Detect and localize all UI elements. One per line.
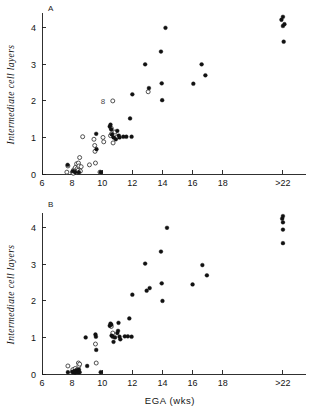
data-point (85, 364, 89, 368)
data-point (160, 81, 164, 85)
data-point (146, 90, 150, 94)
x-tick-label: 14 (157, 378, 167, 388)
data-point (66, 370, 70, 374)
y-tick-label: 2 (31, 96, 36, 106)
data-point (281, 214, 285, 218)
y-tick-label: 4 (31, 223, 36, 233)
data-point (99, 170, 103, 174)
data-point (143, 62, 147, 66)
data-point (111, 99, 115, 103)
y-tick-label: 3 (31, 260, 36, 270)
data-point (118, 136, 122, 140)
series-open (65, 90, 150, 176)
data-point (203, 73, 207, 77)
x-tick-label: 8 (70, 378, 75, 388)
x-tick-label: 8 (70, 178, 75, 188)
series-filled (66, 214, 285, 374)
x-tick-label: 12 (127, 178, 137, 188)
y-tick-label: 1 (31, 133, 36, 143)
x-tick-label: >22 (275, 178, 290, 188)
data-point (147, 86, 151, 90)
x-tick-label: 18 (218, 178, 228, 188)
scatter-plot-b: 681012141618>2201234Intermediate cell la… (0, 198, 317, 409)
data-point (78, 362, 82, 366)
data-point (124, 135, 128, 139)
x-tick-label: 16 (188, 178, 198, 188)
data-point (93, 342, 97, 346)
panel-a: A 681012141618>2201234Intermediate cell … (0, 0, 317, 200)
data-point (200, 263, 204, 267)
data-point (281, 228, 285, 232)
data-point (99, 370, 103, 374)
y-tick-label: 0 (31, 170, 36, 180)
data-point (81, 135, 85, 139)
scatter-plot-a: 681012141618>2201234Intermediate cell la… (0, 0, 317, 200)
x-tick-label: 10 (97, 178, 107, 188)
data-point (283, 22, 287, 26)
panel-b: B 681012141618>2201234Intermediate cell … (0, 198, 317, 409)
y-axis-title: Intermediate cell layers (6, 45, 16, 146)
x-tick-label: >22 (275, 378, 290, 388)
data-point (94, 348, 98, 352)
x-tick-label: 6 (39, 378, 44, 388)
x-tick-label: 18 (218, 378, 228, 388)
y-tick-label: 3 (31, 60, 36, 70)
data-point (102, 140, 106, 144)
data-point (281, 15, 285, 19)
data-point (109, 123, 113, 127)
data-point (66, 163, 70, 167)
data-point (111, 141, 115, 145)
data-point (127, 317, 131, 321)
data-point (160, 281, 164, 285)
y-axis-title: Intermediate cell layers (6, 245, 16, 346)
data-point (112, 340, 116, 344)
data-point (78, 370, 82, 374)
data-point (101, 135, 105, 139)
data-point (205, 273, 209, 277)
data-point (128, 117, 132, 121)
x-tick-label: 14 (157, 178, 167, 188)
data-point (66, 364, 70, 368)
figure-container: A 681012141618>2201234Intermediate cell … (0, 0, 317, 409)
data-point (92, 137, 96, 141)
data-point (109, 323, 113, 327)
data-point (94, 335, 98, 339)
data-point (130, 293, 134, 297)
x-tick-label: 10 (97, 378, 107, 388)
data-point (160, 98, 164, 102)
series-filled (66, 15, 287, 174)
data-point (126, 334, 130, 338)
data-point (130, 135, 134, 139)
data-point (94, 132, 98, 136)
data-point (159, 250, 163, 254)
data-point (73, 170, 77, 174)
x-tick-label: 12 (127, 378, 137, 388)
data-point (94, 361, 98, 365)
data-point (109, 128, 113, 132)
annotation-8: 8 (101, 97, 106, 106)
data-point (78, 156, 82, 160)
data-point (84, 336, 88, 340)
series-open (66, 324, 115, 372)
data-point (164, 26, 168, 30)
x-tick-label: 6 (39, 178, 44, 188)
data-point (87, 163, 91, 167)
data-point (114, 137, 118, 141)
x-axis-title: EGA (wks) (145, 395, 195, 406)
data-point (117, 321, 121, 325)
data-point (79, 165, 83, 169)
data-point (161, 299, 165, 303)
x-tick-label: 16 (188, 378, 198, 388)
data-point (165, 226, 169, 230)
data-point (93, 161, 97, 165)
data-point (143, 262, 147, 266)
data-point (113, 336, 117, 340)
data-point (281, 241, 285, 245)
data-point (200, 62, 204, 66)
data-point (191, 283, 195, 287)
data-point (65, 170, 69, 174)
data-point (93, 143, 97, 147)
y-tick-label: 1 (31, 333, 36, 343)
y-tick-label: 0 (31, 370, 36, 380)
data-point (77, 170, 81, 174)
